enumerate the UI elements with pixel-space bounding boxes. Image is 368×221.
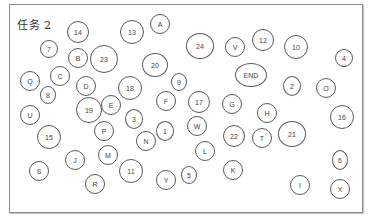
node-s[interactable]: S [29, 161, 49, 181]
node-w[interactable]: W [187, 116, 207, 136]
node-f[interactable]: F [156, 91, 176, 111]
node-a[interactable]: A [150, 14, 170, 34]
node-h[interactable]: H [257, 103, 277, 123]
node-10[interactable]: 10 [284, 35, 308, 59]
node-y[interactable]: Y [156, 170, 176, 190]
node-3[interactable]: 3 [125, 109, 143, 129]
node-k[interactable]: K [223, 160, 243, 180]
node-15[interactable]: 15 [37, 125, 61, 149]
node-v[interactable]: V [225, 37, 245, 57]
node-5[interactable]: 5 [181, 166, 197, 184]
node-19[interactable]: 19 [76, 97, 102, 123]
node-u[interactable]: U [20, 105, 40, 125]
node-end[interactable]: END [235, 63, 267, 87]
node-20[interactable]: 20 [142, 53, 168, 77]
node-14[interactable]: 14 [67, 21, 89, 43]
node-17[interactable]: 17 [188, 91, 210, 113]
node-13[interactable]: 13 [120, 20, 144, 44]
node-j[interactable]: J [65, 150, 85, 170]
node-l[interactable]: L [195, 141, 215, 161]
node-18[interactable]: 18 [118, 76, 142, 100]
node-11[interactable]: 11 [119, 159, 143, 183]
node-m[interactable]: M [98, 145, 118, 165]
node-23[interactable]: 23 [90, 45, 118, 73]
node-21[interactable]: 21 [278, 121, 306, 147]
node-p[interactable]: P [94, 121, 114, 141]
node-c[interactable]: C [50, 66, 70, 86]
node-8[interactable]: 8 [40, 86, 56, 104]
node-9[interactable]: 9 [171, 73, 187, 91]
node-22[interactable]: 22 [223, 125, 245, 147]
task-title: 任务 2 [17, 16, 52, 32]
node-6[interactable]: 6 [332, 150, 348, 170]
node-r[interactable]: R [85, 174, 105, 194]
node-7[interactable]: 7 [40, 40, 58, 58]
node-12[interactable]: 12 [252, 29, 274, 51]
node-o[interactable]: O [316, 78, 336, 98]
node-g[interactable]: G [222, 94, 242, 114]
node-x[interactable]: X [330, 179, 350, 199]
node-2[interactable]: 2 [283, 76, 301, 96]
node-24[interactable]: 24 [186, 33, 214, 59]
node-d[interactable]: D [76, 76, 96, 96]
node-4[interactable]: 4 [335, 49, 353, 67]
node-1[interactable]: 1 [156, 121, 174, 141]
node-q[interactable]: Q [20, 71, 40, 91]
node-16[interactable]: 16 [330, 105, 354, 129]
node-i[interactable]: I [290, 175, 310, 195]
node-t[interactable]: T [252, 128, 272, 148]
node-n[interactable]: N [136, 131, 156, 151]
node-e[interactable]: E [101, 95, 121, 115]
node-b[interactable]: B [68, 48, 88, 68]
